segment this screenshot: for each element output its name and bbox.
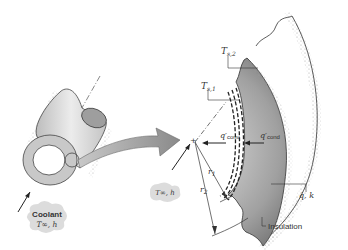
coolant-sub: T∞, h (37, 220, 58, 229)
heat-transfer-diagram: Coolant T∞, h + T∞, h (0, 0, 348, 250)
fluid-arrow-head (185, 144, 190, 150)
tube-bore (33, 145, 65, 175)
qconv-label: q′conv (220, 131, 240, 140)
radius-lines (195, 102, 248, 236)
coolant-arrow-head (25, 192, 30, 198)
r1-arrow-head (222, 193, 228, 200)
insulation-label: Insulation (268, 222, 302, 231)
r2-label: r2 (200, 185, 208, 195)
coolant-label: Coolant (32, 210, 62, 219)
ts1-label: Ts,1 (201, 81, 216, 92)
r1-label: r1 (208, 167, 216, 177)
qconv-arrow-head (202, 141, 208, 146)
ts2-label: Ts,2 (221, 46, 236, 57)
coolant-bubble: Coolant T∞, h (27, 201, 67, 233)
generation-label: q̇, k (299, 191, 314, 200)
fluid-bubble: T∞, h (150, 182, 180, 202)
solid-wall (228, 58, 287, 246)
fluid-label: T∞, h (155, 189, 174, 197)
center-mark: + (190, 136, 197, 145)
tube-illustration (23, 76, 112, 185)
